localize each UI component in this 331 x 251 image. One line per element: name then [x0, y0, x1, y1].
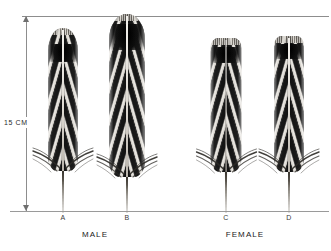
barring-pattern-right [63, 28, 78, 171]
barring-pattern-left [48, 28, 63, 171]
barring-pattern-left [211, 38, 227, 172]
rachis-shaft [225, 40, 227, 172]
specimen-label-c: C [223, 214, 228, 221]
quill-calamus [126, 177, 128, 213]
quill-calamus [225, 172, 227, 213]
barring-pattern-right [226, 38, 242, 172]
feather-b [109, 14, 145, 211]
scale-bar-line [26, 16, 27, 211]
feather-c-vane-group [211, 38, 242, 172]
feather-d-vane-group [274, 36, 304, 172]
feather-a-vane-group [48, 28, 78, 171]
group-label-female: FEMALE [226, 230, 265, 239]
barring-pattern-right [127, 14, 145, 177]
rachis-shaft [126, 16, 128, 177]
quill-calamus [62, 171, 64, 213]
feather-b-vane-group [109, 14, 145, 177]
feather-c [211, 38, 242, 211]
scale-arrow-bottom-icon [23, 205, 29, 211]
barring-pattern-left [274, 36, 289, 172]
feather-a-vane [48, 28, 78, 171]
barring-pattern-right [289, 36, 304, 172]
barring-pattern-left [109, 14, 127, 177]
scale-label: 15 CM [3, 117, 29, 128]
feather-a [48, 32, 78, 211]
feather-d [274, 36, 304, 211]
specimen-label-a: A [61, 214, 66, 221]
feather-b-vane [109, 14, 145, 177]
group-label-male: MALE [82, 230, 108, 239]
top-reference-line [22, 16, 329, 17]
rachis-shaft [62, 30, 64, 171]
feather-c-vane [211, 38, 242, 172]
quill-calamus [288, 172, 290, 213]
specimen-label-d: D [286, 214, 291, 221]
scale-arrow-top-icon [23, 16, 29, 22]
feather-d-vane [274, 36, 304, 172]
baseline-reference-line [10, 211, 329, 212]
specimen-label-b: B [125, 214, 130, 221]
rachis-shaft [288, 38, 290, 172]
feather-comparison-plate: 15 CM ABCDMALEFEMALE [0, 0, 331, 251]
